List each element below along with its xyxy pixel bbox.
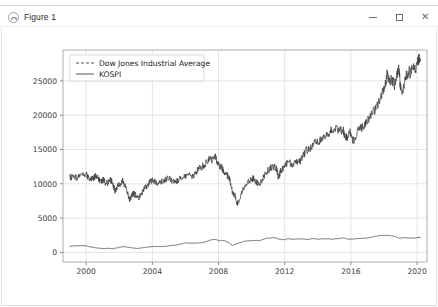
title-bar-left: Figure 1 bbox=[8, 6, 56, 28]
chart-svg: 2000200420082012201620200500010000150002… bbox=[2, 28, 438, 306]
window-title: Figure 1 bbox=[24, 12, 56, 22]
svg-text:2004: 2004 bbox=[143, 267, 162, 276]
chart-series-lines bbox=[70, 54, 421, 249]
minimize-button[interactable] bbox=[360, 6, 386, 28]
close-icon: ✕ bbox=[421, 12, 429, 22]
svg-text:10000: 10000 bbox=[33, 180, 57, 189]
svg-text:5000: 5000 bbox=[38, 214, 57, 223]
figure-canvas[interactable]: 2000200420082012201620200500010000150002… bbox=[1, 28, 437, 306]
chart-ticks bbox=[60, 81, 417, 265]
chart-gridlines bbox=[63, 50, 427, 262]
svg-text:20000: 20000 bbox=[33, 111, 57, 120]
svg-text:2008: 2008 bbox=[209, 267, 228, 276]
maximize-button[interactable] bbox=[386, 6, 412, 28]
title-bar: Figure 1 ✕ bbox=[0, 5, 438, 27]
close-button[interactable]: ✕ bbox=[412, 6, 438, 28]
svg-text:2020: 2020 bbox=[407, 267, 426, 276]
svg-text:2012: 2012 bbox=[275, 267, 294, 276]
chart-tick-labels: 2000200420082012201620200500010000150002… bbox=[33, 77, 427, 276]
svg-text:Dow Jones Industrial Average: Dow Jones Industrial Average bbox=[99, 59, 210, 68]
svg-text:0: 0 bbox=[52, 248, 57, 257]
chart-plot-area: 2000200420082012201620200500010000150002… bbox=[2, 28, 438, 306]
figure-window: Figure 1 ✕ 20002004200820122016202005000… bbox=[0, 0, 438, 307]
matplotlib-icon bbox=[8, 12, 19, 23]
svg-text:25000: 25000 bbox=[33, 77, 57, 86]
svg-text:2016: 2016 bbox=[341, 267, 360, 276]
minimize-icon bbox=[369, 17, 377, 18]
chart-spines bbox=[63, 50, 427, 262]
maximize-icon bbox=[396, 14, 403, 21]
svg-text:KOSPI: KOSPI bbox=[99, 70, 121, 79]
window-controls: ✕ bbox=[360, 6, 438, 28]
svg-text:2000: 2000 bbox=[76, 267, 95, 276]
chart-legend: Dow Jones Industrial AverageKOSPI bbox=[70, 55, 210, 81]
svg-text:15000: 15000 bbox=[33, 145, 57, 154]
